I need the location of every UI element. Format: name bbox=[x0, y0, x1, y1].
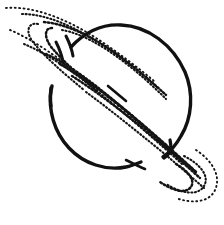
saturn-drawing-canvas: Line drawing of the planet Saturn with t… bbox=[0, 0, 224, 225]
lower-left-solid-ring-stub bbox=[50, 86, 52, 106]
saturn-illustration bbox=[0, 0, 224, 225]
